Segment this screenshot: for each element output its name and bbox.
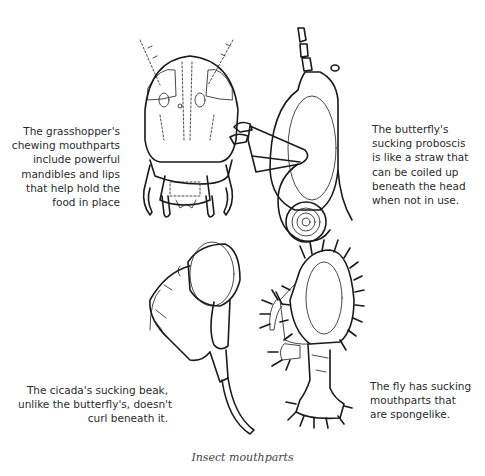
caption-line: mouthparts that (370, 393, 480, 407)
caption-line: unlike the butterfly's, doesn't (18, 397, 168, 411)
fly-head-icon (260, 240, 364, 428)
caption-line: beneath the head (372, 179, 482, 193)
caption-line: chewing mouthparts (4, 138, 120, 152)
butterfly-head-icon (230, 28, 352, 242)
caption-line: that help hold the (4, 181, 120, 195)
grasshopper-head-icon (140, 40, 238, 217)
figure-title: Insect mouthparts (0, 451, 485, 464)
caption-line: include powerful (4, 152, 120, 166)
caption-line: The grasshopper's (4, 124, 120, 138)
caption-grasshopper: The grasshopper's chewing mouthparts inc… (4, 124, 120, 209)
caption-line: The fly has sucking (370, 379, 480, 393)
caption-line: mandibles and lips (4, 167, 120, 181)
caption-line: can be coiled up (372, 165, 482, 179)
caption-line: sucking proboscis (372, 136, 482, 150)
caption-line: are spongelike. (370, 407, 480, 421)
caption-line: is like a straw that (372, 150, 482, 164)
caption-line: curl beneath it. (18, 411, 168, 425)
caption-line: The cicada's sucking beak, (18, 383, 168, 397)
caption-butterfly: The butterfly's sucking proboscis is lik… (372, 122, 482, 207)
caption-cicada: The cicada's sucking beak, unlike the bu… (18, 383, 168, 426)
caption-line: food in place (4, 195, 120, 209)
caption-line: The butterfly's (372, 122, 482, 136)
caption-line: when not in use. (372, 193, 482, 207)
caption-fly: The fly has sucking mouthparts that are … (370, 379, 480, 422)
